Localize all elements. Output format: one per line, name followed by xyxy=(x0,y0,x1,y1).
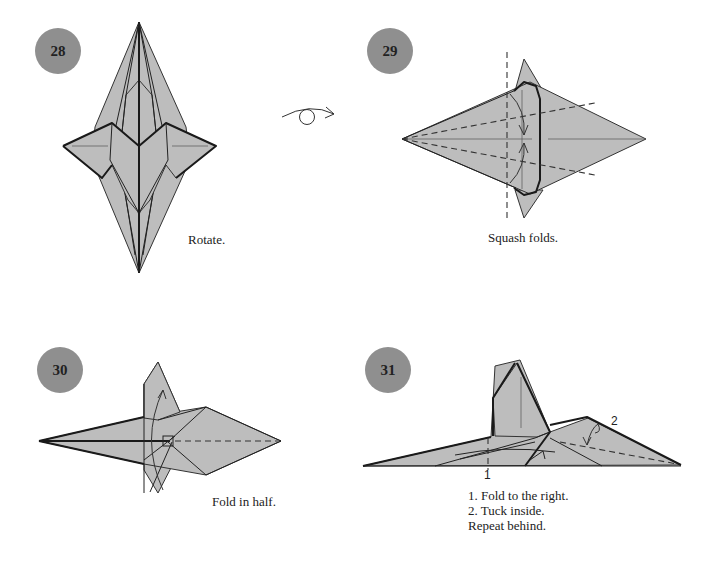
step-30: 30 Fold in half. xyxy=(0,320,300,520)
step-caption: Squash folds. xyxy=(488,230,558,245)
step-caption-line-3: Repeat behind. xyxy=(468,518,546,533)
step-caption: Rotate. xyxy=(188,232,225,247)
origami-diagram-30 xyxy=(0,320,300,520)
rotate-arrow-icon xyxy=(270,80,370,140)
step-29: 29 Squash folds. xyxy=(360,0,680,290)
rotate-symbol xyxy=(270,80,370,140)
callout-label-2: 2 xyxy=(611,414,618,429)
step-31: 31 1 2 1. Fold to the right. 2. Tuck ins… xyxy=(355,320,705,550)
step-caption-line-2: 2. Tuck inside. xyxy=(468,503,545,518)
origami-diagram-29 xyxy=(360,0,680,290)
origami-diagram-28 xyxy=(0,0,300,290)
step-caption-line-1: 1. Fold to the right. xyxy=(468,488,568,503)
callout-label-1: 1 xyxy=(484,468,491,483)
step-28: 28 Rotate. xyxy=(0,0,300,290)
step-caption: Fold in half. xyxy=(212,494,276,509)
